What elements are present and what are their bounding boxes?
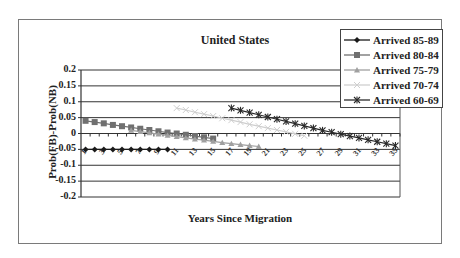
x-marker-icon (343, 80, 371, 90)
series-arrived-80-84 (83, 118, 217, 142)
svg-text:11: 11 (169, 146, 181, 158)
svg-text:13: 13 (187, 146, 199, 158)
svg-text:25: 25 (296, 146, 308, 158)
legend-item: Arrived 80-84 (343, 47, 442, 62)
svg-text:15: 15 (205, 146, 217, 158)
svg-text:23: 23 (278, 146, 290, 158)
square-marker-icon (343, 50, 371, 60)
legend: Arrived 85-89 Arrived 80-84 Arrived 75-7… (340, 29, 443, 108)
legend-item: Arrived 85-89 (343, 32, 442, 47)
triangle-marker-icon (343, 65, 371, 75)
legend-item: Arrived 70-74 (343, 78, 442, 93)
svg-text:27: 27 (315, 146, 327, 158)
svg-text:31: 31 (351, 146, 363, 158)
svg-text:21: 21 (260, 146, 272, 158)
legend-item: Arrived 60-69 (343, 93, 442, 108)
svg-text:33: 33 (369, 146, 381, 158)
series-arrived-60-69 (228, 105, 398, 149)
legend-item: Arrived 75-79 (343, 62, 442, 77)
star-marker-icon (343, 95, 371, 105)
svg-text:17: 17 (223, 146, 235, 158)
diamond-marker-icon (343, 35, 371, 45)
svg-text:29: 29 (333, 146, 345, 158)
